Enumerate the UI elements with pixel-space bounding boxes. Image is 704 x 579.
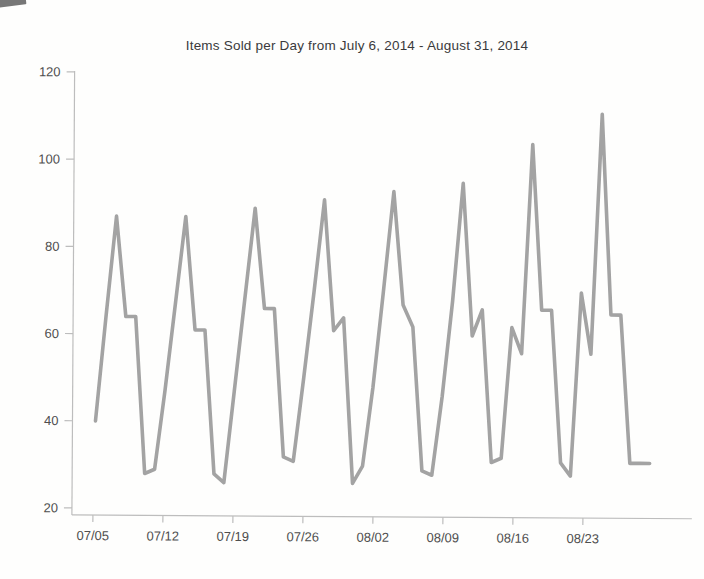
y-tick-label: 120 bbox=[39, 64, 61, 79]
y-tick-label: 60 bbox=[45, 326, 60, 341]
y-tick-label: 20 bbox=[43, 500, 58, 515]
x-tick-label: 08/09 bbox=[426, 530, 459, 545]
x-tick-label: 08/02 bbox=[356, 530, 389, 545]
x-tick-label: 07/05 bbox=[76, 528, 109, 543]
x-axis-line bbox=[72, 515, 692, 519]
y-tick-label: 40 bbox=[44, 413, 59, 428]
y-tick-label: 80 bbox=[45, 239, 60, 254]
chart-page: Items Sold per Day from July 6, 2014 - A… bbox=[0, 0, 704, 579]
series-polyline bbox=[95, 111, 652, 485]
x-tick-label: 07/19 bbox=[216, 529, 249, 544]
y-tick-label: 100 bbox=[38, 151, 60, 166]
chart-area: 2040608010012007/0507/1207/1907/2608/020… bbox=[0, 0, 704, 579]
x-tick-label: 07/26 bbox=[286, 529, 319, 544]
x-tick-label: 08/23 bbox=[566, 531, 599, 546]
x-tick-label: 08/16 bbox=[496, 531, 529, 546]
x-tick-label: 07/12 bbox=[146, 528, 179, 543]
line-chart: 2040608010012007/0507/1207/1907/2608/020… bbox=[0, 0, 704, 579]
y-axis-line bbox=[72, 71, 75, 515]
